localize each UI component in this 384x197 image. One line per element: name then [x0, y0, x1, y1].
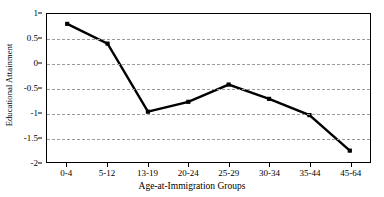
data-markers	[65, 22, 352, 153]
gridline	[47, 64, 370, 65]
data-point-marker	[105, 42, 109, 46]
gridline	[47, 139, 370, 140]
y-axis-tick-label: -2	[31, 158, 39, 168]
x-axis-tick-label: 25-29	[218, 168, 239, 178]
chart-container: Educational Attainment 10.50-0.5-1-1.5-2…	[0, 0, 384, 197]
data-point-marker	[227, 82, 231, 86]
x-axis-tick-label: 13-19	[137, 168, 158, 178]
x-axis-title: Age-at-Immigration Groups	[0, 181, 384, 191]
y-axis-title-text: Educational Attainment	[4, 44, 14, 127]
y-axis-tick-mark	[38, 138, 42, 139]
x-axis-tick-label: 0-4	[60, 168, 72, 178]
x-axis-tick-label: 20-24	[178, 168, 199, 178]
gridline	[47, 114, 370, 115]
y-axis-tick-mark	[38, 38, 42, 39]
x-axis-tick-mark	[148, 163, 149, 167]
y-axis-tick-label: -1.5	[24, 133, 38, 143]
x-axis-tick-label: 5-12	[99, 168, 116, 178]
y-axis-ticks: 10.50-0.5-1-1.5-2	[16, 0, 42, 197]
data-point-marker	[348, 149, 352, 153]
gridline	[47, 89, 370, 90]
y-axis-tick-mark	[38, 163, 42, 164]
y-axis-tick-label: -0.5	[24, 83, 38, 93]
x-axis-tick-mark	[107, 163, 108, 167]
y-axis-tick-label: 0.5	[27, 33, 38, 43]
y-axis-tick-mark	[38, 13, 42, 14]
y-axis-tick-mark	[38, 113, 42, 114]
x-axis-tick-label: 35-44	[300, 168, 321, 178]
x-axis-tick-label: 45-64	[340, 168, 361, 178]
x-axis-tick-mark	[66, 163, 67, 167]
y-axis-tick-mark	[38, 88, 42, 89]
y-axis-tick-label: -1	[31, 108, 39, 118]
y-axis-tick-mark	[38, 63, 42, 64]
plot-area	[46, 13, 371, 163]
data-point-marker	[65, 22, 69, 26]
x-axis-tick-mark	[351, 163, 352, 167]
x-axis-tick-mark	[310, 163, 311, 167]
x-axis-tick-label: 30-34	[259, 168, 280, 178]
data-point-marker	[186, 100, 190, 104]
x-axis-tick-mark	[188, 163, 189, 167]
data-point-marker	[267, 97, 271, 101]
x-axis-tick-mark	[269, 163, 270, 167]
gridline	[47, 39, 370, 40]
x-axis-tick-mark	[229, 163, 230, 167]
